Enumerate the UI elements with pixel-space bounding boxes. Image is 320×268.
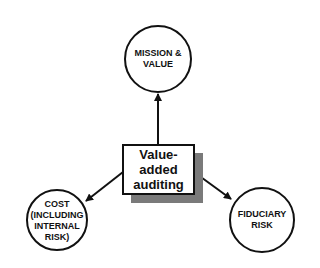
- cost-label-line: COST: [44, 199, 69, 210]
- fiduciary-label: FIDUCIARY RISK: [232, 207, 292, 233]
- center-label-line: added: [139, 162, 177, 177]
- mission-label-line: MISSION &: [134, 48, 181, 59]
- mission-label-line: VALUE: [143, 59, 173, 70]
- cost-label-line: RISK): [45, 232, 70, 243]
- cost-label: COST (INCLUDING INTERNAL RISK): [27, 198, 87, 244]
- center-label-line: Value-: [139, 147, 177, 162]
- center-label-line: auditing: [133, 177, 184, 192]
- mission-label: MISSION & VALUE: [128, 44, 188, 74]
- cost-label-line: INTERNAL: [34, 221, 80, 232]
- arrow-to-cost: [86, 172, 123, 201]
- center-label: Value- added auditing: [124, 146, 193, 193]
- cost-label-line: (INCLUDING: [31, 210, 84, 221]
- fiduciary-label-line: FIDUCIARY: [238, 209, 287, 220]
- fiduciary-label-line: RISK: [251, 220, 273, 231]
